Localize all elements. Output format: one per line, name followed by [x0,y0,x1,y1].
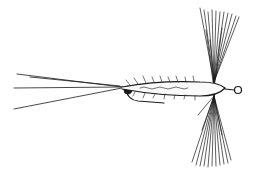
upper-hackle [200,8,239,82]
fly-body [122,76,225,100]
hook-eye [235,87,242,94]
lower-hackle [192,96,231,167]
tail-fibers [14,74,122,109]
fly-illustration [0,0,254,175]
fly-drawing [0,0,254,175]
